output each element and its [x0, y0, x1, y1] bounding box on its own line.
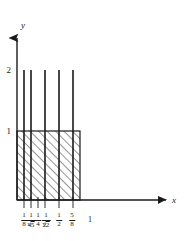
- y-axis-label: y: [20, 20, 25, 30]
- x-tick-label-6-denominator: 8: [69, 221, 75, 228]
- x-tick-label-5-numerator: 1: [56, 212, 62, 219]
- x-tick-label-6: 5 8: [69, 212, 75, 228]
- x-axis-label: x: [171, 195, 176, 205]
- y-tick-label-1: 1: [7, 126, 12, 136]
- x-tick-label-4-radical: 2: [46, 221, 50, 229]
- x-tick-label-5-denominator: 2: [56, 221, 62, 228]
- y-tick-label-2: 2: [7, 65, 12, 75]
- x-tick-label-2: 1 45: [27, 212, 36, 229]
- x-tick-label-2-numerator: 1: [27, 212, 36, 219]
- x-tick-label-3-numerator: 1: [35, 212, 41, 219]
- x-unit-tick-label: 1: [88, 215, 92, 224]
- x-tick-label-2-denominator: 45: [27, 221, 36, 229]
- hatched-unit-square: [17, 131, 80, 200]
- x-tick-label-6-numerator: 5: [69, 212, 75, 219]
- x-tick-label-5: 1 2: [56, 212, 62, 228]
- x-tick-label-4-numerator: 1: [42, 212, 51, 219]
- math-figure-canvas: 2 1 y x: [0, 0, 184, 241]
- x-tick-label-3-denominator: 4: [35, 221, 41, 228]
- x-tick-label-4-denominator: 22: [42, 221, 51, 229]
- x-tick-label-3: 1 4: [35, 212, 41, 228]
- x-tick-label-4: 1 22: [42, 212, 51, 229]
- x-tick-label-2-radical: 5: [31, 221, 35, 229]
